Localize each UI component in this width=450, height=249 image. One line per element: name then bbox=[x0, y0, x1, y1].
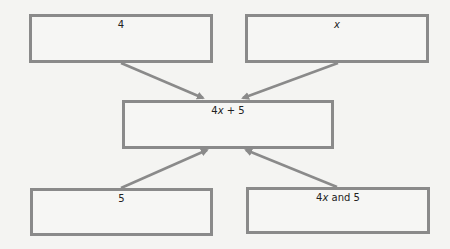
box-center: 4x + 5 bbox=[122, 100, 334, 149]
arrow-top-left-to-center bbox=[121, 63, 203, 98]
box-label: 4 bbox=[118, 19, 124, 30]
box-bottom-left: 5 bbox=[30, 188, 213, 236]
box-label: 5 bbox=[118, 193, 124, 204]
expression-rest: + 5 bbox=[224, 105, 245, 116]
expression-rest: and 5 bbox=[328, 192, 360, 203]
arrow-top-right-to-center bbox=[243, 63, 338, 98]
arrow-bottom-left-to-center bbox=[121, 150, 207, 188]
box-top-left: 4 bbox=[29, 14, 213, 63]
box-label: 4x + 5 bbox=[211, 105, 244, 116]
box-label: 4x and 5 bbox=[316, 192, 360, 203]
box-top-right: x bbox=[245, 14, 429, 63]
box-bottom-right: 4x and 5 bbox=[246, 187, 430, 234]
box-label: x bbox=[334, 19, 340, 30]
arrow-bottom-right-to-center bbox=[246, 150, 337, 187]
